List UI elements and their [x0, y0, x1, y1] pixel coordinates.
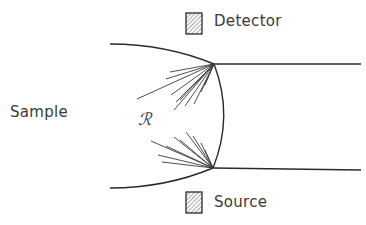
- source-ray-fan: [151, 132, 213, 168]
- source-label: Source: [214, 193, 267, 211]
- detector-ray-fan: [137, 64, 214, 110]
- detector-label: Detector: [214, 12, 282, 30]
- diagram-canvas: Detector Source Sample ℛ: [0, 0, 366, 225]
- detector-icon: [186, 13, 202, 34]
- sample-label: Sample: [10, 103, 68, 121]
- region-label: ℛ: [138, 109, 152, 129]
- source-icon: [186, 192, 202, 213]
